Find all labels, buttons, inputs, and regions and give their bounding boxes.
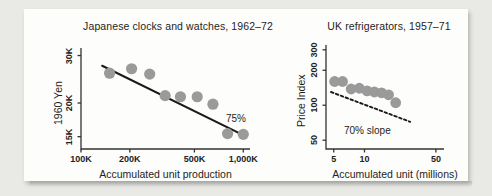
y-tick-label: 50 xyxy=(309,135,319,145)
y-tick-label: 100 xyxy=(309,98,319,113)
x-axis-title-left: Accumulated unit production xyxy=(99,168,232,180)
y-tick-label: 30K xyxy=(64,47,74,64)
y-tick-label: 15K xyxy=(64,128,74,145)
chart-japanese-clocks-watches: Japanese clocks and watches, 1962–72 196… xyxy=(34,9,278,181)
y-axis-title-right: Price Index xyxy=(295,74,307,127)
x-tick-label: 1,000K xyxy=(229,154,258,164)
x-tick-label: 50 xyxy=(431,154,441,164)
figure-card: Japanese clocks and watches, 1962–72 196… xyxy=(24,9,468,181)
figure-page: Japanese clocks and watches, 1962–72 196… xyxy=(0,0,492,196)
y-tick-label: 20K xyxy=(64,95,74,112)
x-tick-label: 500K xyxy=(184,154,206,164)
x-tick-label: 10 xyxy=(359,154,369,164)
x-axis-title-right: Accumulated unit (millions) xyxy=(332,168,457,180)
x-tick-label: 200K xyxy=(119,154,141,164)
y-tick-label: 200 xyxy=(309,63,319,78)
trend-annotation-left: 75% xyxy=(226,113,246,124)
trend-annotation-right: 70% slope xyxy=(344,125,391,136)
y-tick-label: 300 xyxy=(309,42,319,57)
chart-uk-refrigerators: UK refrigerators, 1957–71 Price Index Ac… xyxy=(278,9,468,181)
y-axis-title-left: 1960 Yen xyxy=(52,81,64,125)
x-tick-label: 100K xyxy=(70,154,92,164)
x-tick-label: 5 xyxy=(331,154,336,164)
